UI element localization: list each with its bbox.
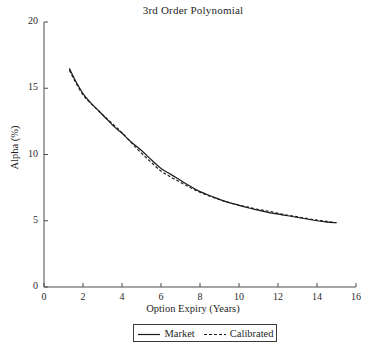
x-tick-marks: [44, 283, 356, 287]
x-tick-label: 6: [146, 291, 176, 302]
series-lines: [69, 68, 336, 222]
y-tick-label: 0: [12, 280, 38, 291]
legend-entry-market: Market: [138, 329, 194, 340]
legend-line-swatch: [138, 331, 160, 338]
legend-entry-calibrated: Calibrated: [204, 329, 274, 340]
y-tick-label: 15: [12, 81, 38, 92]
x-axis-title: Option Expiry (Years): [0, 303, 386, 314]
x-tick-label: 12: [263, 291, 293, 302]
x-tick-label: 2: [68, 291, 98, 302]
chart-legend: MarketCalibrated: [133, 324, 277, 342]
y-tick-label: 5: [12, 214, 38, 225]
x-tick-label: 8: [185, 291, 215, 302]
axis-lines: [44, 22, 356, 287]
x-tick-label: 4: [107, 291, 137, 302]
series-line-market: [69, 68, 336, 222]
series-line-calibrated: [69, 70, 336, 222]
legend-label: Market: [164, 329, 194, 340]
x-tick-label: 0: [29, 291, 59, 302]
chart-figure: 3rd Order Polynomial Option Expiry (Year…: [0, 0, 386, 347]
x-tick-label: 10: [224, 291, 254, 302]
x-tick-label: 16: [341, 291, 371, 302]
y-tick-marks: [44, 22, 48, 287]
y-tick-label: 20: [12, 15, 38, 26]
legend-entries: MarketCalibrated: [134, 325, 278, 343]
y-tick-label: 10: [12, 148, 38, 159]
x-tick-label: 14: [302, 291, 332, 302]
legend-line-swatch: [204, 331, 226, 338]
legend-label: Calibrated: [230, 329, 274, 340]
